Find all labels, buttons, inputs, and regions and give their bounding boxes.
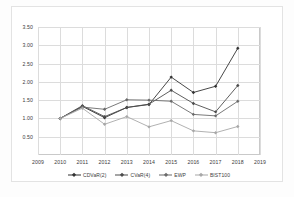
legend-item[interactable]: EWP <box>159 172 186 178</box>
series-line <box>60 108 238 133</box>
legend-label: EWP <box>174 172 186 178</box>
x-axis-tick-label: 2010 <box>54 159 66 165</box>
data-point-marker <box>192 129 195 132</box>
x-axis-tick-label: 2009 <box>32 159 44 165</box>
data-point-marker <box>103 108 106 111</box>
data-point-marker <box>236 125 239 128</box>
y-axis-tick-label: 2.00 <box>23 79 34 85</box>
y-axis-tick-label: 1.00 <box>23 115 34 121</box>
x-axis-tick-label: 2013 <box>121 159 133 165</box>
y-axis-tick-label: 3.50 <box>23 24 34 30</box>
legend-label: CVaR(4) <box>130 172 150 178</box>
data-point-marker <box>125 98 128 101</box>
legend-marker-icon <box>68 172 81 178</box>
legend-label: BIST100 <box>210 172 230 178</box>
series-line <box>60 86 238 119</box>
legend-marker-icon <box>159 172 172 178</box>
legend-item[interactable]: CDVaR(2) <box>68 172 107 178</box>
x-axis-tick-label: 2019 <box>254 159 266 165</box>
y-axis-tick-label: 2.50 <box>23 61 34 67</box>
gridline-vertical <box>260 27 261 155</box>
legend-marker-icon <box>115 172 128 178</box>
x-axis-tick-label: 2018 <box>232 159 244 165</box>
legend-marker-icon <box>195 172 208 178</box>
chart-legend: CDVaR(2)CVaR(4)EWPBIST100 <box>38 172 260 178</box>
y-axis-tick-label: 0.50 <box>23 134 34 140</box>
data-point-marker <box>147 98 150 101</box>
legend-item[interactable]: CVaR(4) <box>115 172 150 178</box>
y-axis-tick-label: 1.50 <box>23 97 34 103</box>
legend-label: CDVaR(2) <box>83 172 107 178</box>
data-point-marker <box>170 119 173 122</box>
data-point-marker <box>125 115 128 118</box>
series-lines <box>38 27 260 155</box>
chart-figure: 0.501.001.502.002.503.003.50 20092010201… <box>0 0 294 197</box>
x-axis-tick-label: 2012 <box>99 159 111 165</box>
x-axis-tick-label: 2016 <box>187 159 199 165</box>
y-axis-tick-label: 3.00 <box>23 42 34 48</box>
legend-item[interactable]: BIST100 <box>195 172 230 178</box>
data-point-marker <box>125 106 128 109</box>
data-point-marker <box>147 125 150 128</box>
x-axis-tick-label: 2011 <box>77 159 89 165</box>
x-axis-tick-label: 2017 <box>210 159 222 165</box>
plot-wrapper: 0.501.001.502.002.503.003.50 20092010201… <box>38 27 260 155</box>
x-axis-tick-label: 2014 <box>143 159 155 165</box>
data-point-marker <box>214 131 217 134</box>
x-axis-tick-label: 2015 <box>165 159 177 165</box>
